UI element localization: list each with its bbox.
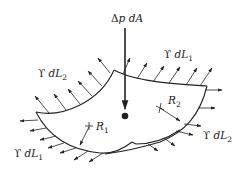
edge-bottom-notch xyxy=(132,130,180,144)
load-point-icon xyxy=(122,113,129,120)
label-tension-bottom-right: ϒ dL2 xyxy=(203,129,232,144)
arrows-top-right xyxy=(123,58,212,86)
label-radius-r1: R1 xyxy=(95,120,109,135)
edge-top-notch xyxy=(114,70,118,72)
label-tension-top-right: ϒ dL1 xyxy=(164,48,193,63)
edge-top-right xyxy=(118,72,207,86)
radius-r1-indicator xyxy=(80,122,93,145)
edge-right xyxy=(105,86,207,154)
label-tension-top-left: ϒ dL2 xyxy=(38,67,67,82)
label-tension-bottom-left: ϒ dL1 xyxy=(14,147,43,162)
surface-tension-diagram: Δp dA ϒ dL1 ϒ dL2 ϒ dL2 ϒ dL1 R1 R2 xyxy=(0,0,248,182)
label-radius-r2: R2 xyxy=(167,94,181,109)
surface-element xyxy=(36,70,207,154)
label-pressure: Δp dA xyxy=(111,12,143,24)
